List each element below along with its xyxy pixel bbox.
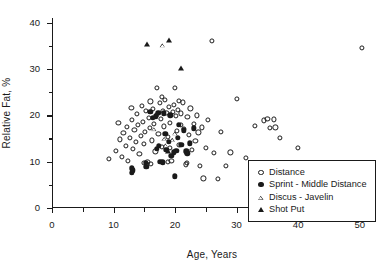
data-point	[128, 135, 133, 140]
data-point	[137, 151, 142, 156]
data-point	[134, 111, 139, 116]
data-point	[277, 135, 282, 140]
x-tick-minor-5	[83, 208, 84, 212]
data-point	[166, 160, 171, 165]
data-point	[172, 130, 178, 135]
data-point	[271, 117, 276, 122]
data-point	[184, 160, 189, 165]
data-point	[133, 140, 138, 145]
data-point	[154, 146, 159, 151]
data-point	[206, 117, 211, 122]
legend-item-sprint-middle-distance: Sprint - Middle Distance	[255, 179, 367, 192]
open-circle-icon	[255, 166, 267, 178]
data-point	[173, 114, 178, 119]
x-tick-0: 0	[52, 208, 53, 213]
x-tick-minor-15	[144, 208, 145, 212]
data-point	[106, 156, 111, 161]
y-tick-label-0: 0	[35, 203, 40, 213]
legend: DistanceSprint - Middle DistanceDiscus -…	[248, 160, 376, 222]
data-point	[170, 137, 176, 142]
data-point	[166, 38, 172, 43]
x-tick-20: 20	[175, 208, 176, 213]
data-point	[211, 150, 216, 155]
data-point	[148, 99, 153, 104]
data-point	[154, 85, 159, 90]
x-tick-label-30: 30	[231, 220, 242, 230]
data-point	[124, 124, 129, 129]
data-point	[130, 146, 135, 151]
data-point	[187, 140, 192, 145]
data-point	[201, 176, 206, 181]
filled-triangle-icon	[255, 204, 267, 216]
data-point	[144, 42, 150, 47]
data-point	[223, 163, 228, 168]
data-point	[157, 101, 162, 106]
y-tick-40: 40	[47, 23, 52, 24]
data-point	[185, 115, 190, 120]
x-tick-30: 30	[237, 208, 238, 213]
data-point	[359, 46, 364, 51]
data-point	[219, 129, 224, 134]
data-point	[142, 129, 147, 134]
y-tick-minor-35	[49, 46, 53, 47]
data-point	[130, 168, 135, 173]
data-point	[142, 141, 147, 146]
legend-label: Discus - Javelin	[269, 193, 333, 202]
scatter-plot-figure: Relative Fat, % Age, Years 010203040 010…	[0, 0, 387, 274]
y-axis-line	[52, 18, 53, 208]
data-point	[186, 132, 191, 137]
data-point	[188, 106, 193, 111]
legend-label: Sprint - Middle Distance	[269, 180, 367, 189]
y-tick-minor-5	[49, 185, 53, 186]
data-point	[129, 117, 134, 122]
data-point	[194, 113, 199, 118]
data-point	[162, 136, 168, 141]
data-point	[252, 123, 257, 128]
legend-item-distance: Distance	[255, 166, 367, 179]
data-point	[156, 131, 161, 136]
data-point	[267, 126, 272, 131]
data-point	[197, 164, 202, 169]
x-tick-label-20: 20	[170, 220, 181, 230]
data-point	[228, 150, 233, 155]
y-tick-30: 30	[47, 69, 52, 70]
data-point	[149, 138, 154, 143]
data-point	[172, 174, 177, 179]
data-point	[139, 103, 144, 108]
data-point	[216, 176, 221, 181]
data-point	[179, 111, 184, 116]
y-axis-title: Relative Fat, %	[1, 78, 12, 149]
data-point	[209, 39, 214, 44]
y-tick-label-30: 30	[29, 64, 40, 74]
data-point	[160, 159, 165, 164]
data-point	[158, 116, 163, 121]
data-point	[172, 85, 177, 90]
data-point	[161, 124, 166, 129]
data-point	[123, 143, 128, 148]
data-point	[167, 113, 172, 118]
data-point	[234, 97, 239, 102]
y-tick-label-10: 10	[29, 157, 40, 167]
data-point	[143, 164, 148, 169]
data-point	[265, 116, 270, 121]
y-tick-20: 20	[47, 115, 52, 116]
data-point	[171, 102, 176, 107]
data-point	[113, 148, 118, 153]
y-tick-minor-25	[49, 92, 53, 93]
data-point	[148, 109, 153, 114]
data-point	[168, 120, 173, 125]
data-point	[132, 128, 137, 133]
legend-item-discus-javelin: Discus - Javelin	[255, 191, 367, 204]
data-point	[119, 154, 124, 159]
x-tick-label-0: 0	[49, 220, 54, 230]
data-point	[196, 130, 201, 135]
data-point	[171, 150, 176, 155]
data-point	[165, 149, 171, 154]
open-triangle-icon	[255, 191, 267, 203]
data-point	[140, 119, 145, 124]
y-tick-label-40: 40	[29, 18, 40, 28]
x-tick-minor-25	[206, 208, 207, 212]
data-point	[151, 126, 157, 131]
legend-item-shot-put: Shot Put	[255, 204, 367, 217]
x-tick-10: 10	[114, 208, 115, 213]
